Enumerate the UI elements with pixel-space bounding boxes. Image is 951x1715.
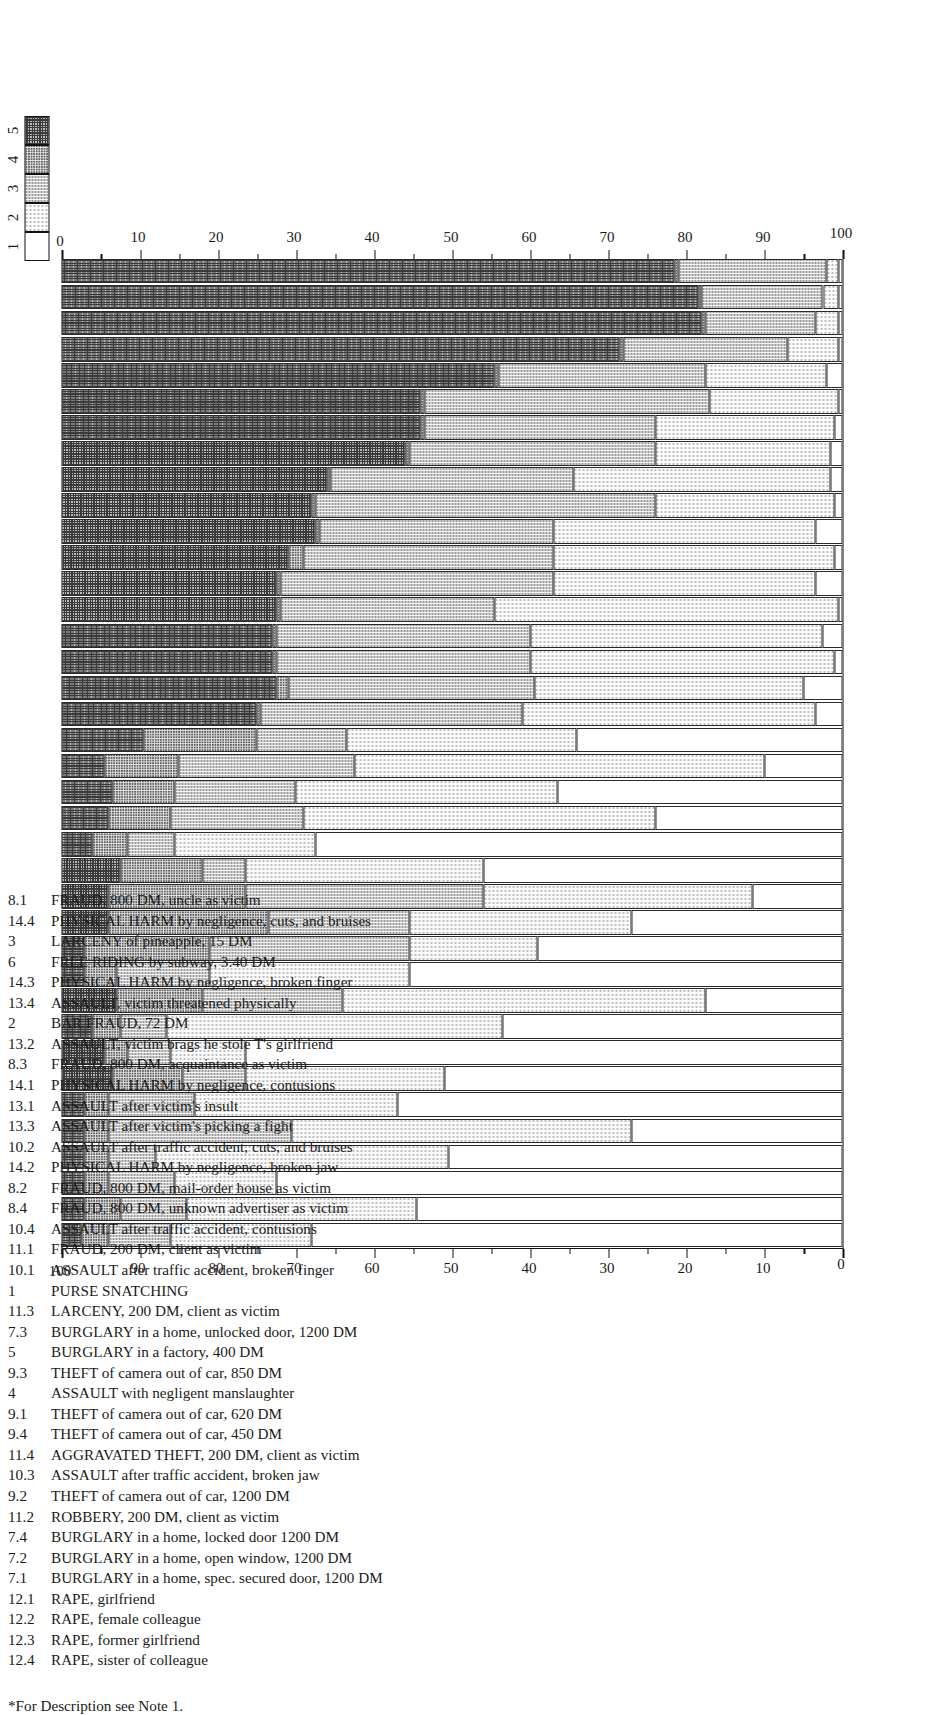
- category-code: 7.1: [8, 1569, 42, 1587]
- tick-left-60: [374, 1249, 375, 1258]
- category-code: 9.1: [8, 1405, 42, 1423]
- tick-left-70: [296, 1249, 297, 1258]
- tick-right-40: [374, 250, 375, 259]
- category-row-12.4: 12.4RAPE, sister of colleague: [8, 1651, 208, 1669]
- legend-swatch-1: [24, 232, 49, 261]
- category-description: THEFT of camera out of car, 850 DM: [51, 1364, 282, 1382]
- category-description: BURGLARY in a home, open window, 1200 DM: [51, 1549, 352, 1567]
- tick-left-100: [61, 1249, 62, 1258]
- legend-swatch-4: [24, 145, 49, 174]
- category-description: THEFT of camera out of car, 620 DM: [51, 1405, 282, 1423]
- tick-left-50: [452, 1249, 453, 1258]
- category-row-9.4: 9.4THEFT of camera out of car, 450 DM: [8, 1425, 282, 1443]
- tick-left-25: [647, 1249, 648, 1254]
- tick-label-left-50: 50: [442, 1261, 459, 1295]
- category-code: 12.4: [8, 1651, 42, 1669]
- tick-right-95: [803, 254, 804, 259]
- category-code: 4: [8, 1384, 42, 1402]
- category-row-11.2: 11.2ROBBERY, 200 DM, client as victim: [8, 1508, 279, 1526]
- tick-left-35: [569, 1249, 570, 1254]
- tick-left-45: [491, 1249, 492, 1254]
- tick-right-65: [569, 254, 570, 259]
- category-row-12.2: 12.2RAPE, female colleague: [8, 1610, 201, 1628]
- tick-right-25: [257, 254, 258, 259]
- legend-label: 1: [4, 232, 21, 261]
- tick-label-left-90: 90: [129, 1261, 146, 1295]
- tick-label-left-60: 60: [363, 1261, 380, 1295]
- category-description: THEFT of camera out of car, 450 DM: [51, 1425, 282, 1443]
- tick-left-90: [140, 1249, 141, 1258]
- legend-item-2: 2: [24, 203, 49, 232]
- tick-label-left-0: 0: [832, 1261, 849, 1295]
- tick-label-right-90: 90: [754, 211, 771, 245]
- category-row-12.1: 12.1RAPE, girlfriend: [8, 1590, 155, 1608]
- tick-label-left-40: 40: [520, 1261, 537, 1295]
- footnote: *For Description see Note 1.: [8, 1697, 183, 1715]
- legend-item-3: 3: [24, 174, 49, 203]
- category-row-10.3: 10.3ASSAULT after traffic accident, brok…: [8, 1466, 320, 1484]
- tick-left-80: [218, 1249, 219, 1258]
- category-description: RAPE, sister of colleague: [51, 1651, 208, 1669]
- legend-label: 3: [4, 174, 21, 203]
- tick-label-right-70: 70: [598, 211, 615, 245]
- category-description: THEFT of camera out of car, 1200 DM: [51, 1487, 290, 1505]
- category-code: 7.2: [8, 1549, 42, 1567]
- legend-label: 2: [4, 203, 21, 232]
- tick-right-80: [686, 250, 687, 259]
- legend-item-1: 1: [24, 232, 49, 261]
- tick-right-10: [140, 250, 141, 259]
- category-code: 12.1: [8, 1590, 42, 1608]
- category-description: AGGRAVATED THEFT, 200 DM, client as vict…: [51, 1446, 360, 1464]
- tick-label-right-50: 50: [442, 211, 459, 245]
- tick-right-20: [218, 250, 219, 259]
- tick-right-0: [61, 250, 62, 259]
- category-description: ASSAULT with negligent manslaughter: [51, 1384, 294, 1402]
- tick-left-65: [335, 1249, 336, 1254]
- category-row-7.2: 7.2BURGLARY in a home, open window, 1200…: [8, 1549, 352, 1567]
- tick-label-left-100: 100: [51, 1261, 68, 1295]
- tick-left-75: [257, 1249, 258, 1254]
- category-row-12.3: 12.3RAPE, former girlfriend: [8, 1631, 200, 1649]
- tick-right-70: [608, 250, 609, 259]
- category-description: BURGLARY in a home, spec. secured door, …: [51, 1569, 383, 1587]
- tick-label-right-60: 60: [520, 211, 537, 245]
- tick-left-10: [764, 1249, 765, 1258]
- tick-label-left-30: 30: [598, 1261, 615, 1295]
- tick-label-right-0: 0: [51, 211, 68, 245]
- tick-right-85: [725, 254, 726, 259]
- tick-right-45: [413, 254, 414, 259]
- category-description: ROBBERY, 200 DM, client as victim: [51, 1508, 279, 1526]
- tick-left-85: [179, 1249, 180, 1254]
- category-code: 9.2: [8, 1487, 42, 1505]
- tick-right-60: [530, 250, 531, 259]
- category-code: 9.3: [8, 1364, 42, 1382]
- legend-swatch-3: [24, 174, 49, 203]
- tick-right-15: [179, 254, 180, 259]
- tick-label-right-20: 20: [207, 211, 224, 245]
- tick-right-35: [335, 254, 336, 259]
- tick-label-right-80: 80: [676, 211, 693, 245]
- category-row-7.4: 7.4BURGLARY in a home, locked door 1200 …: [8, 1528, 339, 1546]
- tick-label-right-100: 100: [832, 211, 849, 245]
- category-description: ASSAULT after traffic accident, broken j…: [51, 1466, 320, 1484]
- category-row-11.4: 11.4AGGRAVATED THEFT, 200 DM, client as …: [8, 1446, 360, 1464]
- tick-label-right-40: 40: [363, 211, 380, 245]
- percent-axis-bottom: 0102030405060708090100: [62, 259, 843, 1249]
- tick-left-40: [530, 1249, 531, 1258]
- category-row-9.2: 9.2THEFT of camera out of car, 1200 DM: [8, 1487, 290, 1505]
- category-code: 10.3: [8, 1466, 42, 1484]
- legend-swatch-5: [24, 116, 49, 145]
- tick-right-5: [100, 254, 101, 259]
- tick-right-75: [647, 254, 648, 259]
- category-description: RAPE, girlfriend: [51, 1590, 155, 1608]
- category-row-9.1: 9.1THEFT of camera out of car, 620 DM: [8, 1405, 282, 1423]
- legend-item-5: 5: [24, 116, 49, 145]
- chart-legend: 12345: [24, 116, 49, 261]
- tick-left-30: [608, 1249, 609, 1258]
- category-description: RAPE, female colleague: [51, 1610, 201, 1628]
- tick-left-5: [803, 1249, 804, 1254]
- tick-label-right-10: 10: [129, 211, 146, 245]
- category-row-7.1: 7.1BURGLARY in a home, spec. secured doo…: [8, 1569, 383, 1587]
